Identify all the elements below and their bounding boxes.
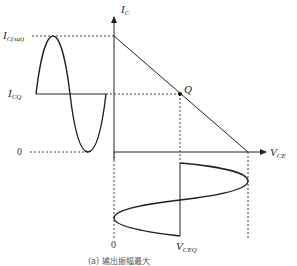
zero-bottom-label: 0 (111, 240, 116, 250)
voltage-sine-wave (114, 163, 248, 236)
y-axis-label: IC (121, 4, 129, 17)
ic-sat-label: IC(sat) (3, 30, 24, 43)
q-point-marker (178, 92, 182, 96)
icq-label: ICQ (8, 88, 21, 101)
figure-caption: (a) 输出振幅最大 (88, 258, 150, 266)
vceq-label: VCEQ (176, 241, 197, 254)
zero-left-label: 0 (17, 147, 22, 157)
x-axis-label: VCE (270, 147, 286, 160)
q-point-label: Q (184, 84, 192, 95)
